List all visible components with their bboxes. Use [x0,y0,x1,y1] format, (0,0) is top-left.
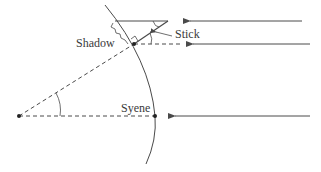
stick-point [132,42,136,46]
stick-top-angle-arc [153,21,159,27]
stick-angle-arc [150,33,152,44]
right-angle-mark [131,36,138,41]
center-angle-arc [56,93,61,116]
eratosthenes-diagram [0,0,321,172]
earth-arc [105,5,155,164]
syene-label: Syene [121,102,150,114]
syene-point [153,114,157,118]
radius-to-stick [19,44,134,116]
stick-pointer [156,32,172,36]
shadow-label: Shadow [76,37,115,49]
stick-label: Stick [175,28,200,40]
center-point [17,114,21,118]
stick [134,21,168,44]
